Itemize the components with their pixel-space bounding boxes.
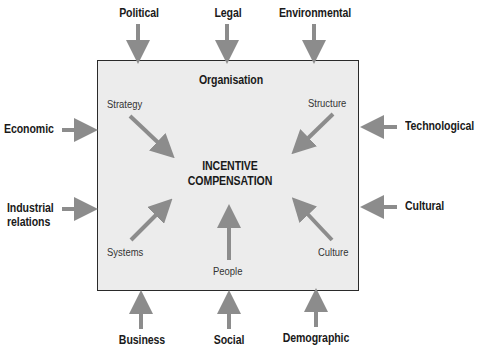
label-industrial-relations: Industrial relations [7,201,54,229]
label-business: Business [116,333,169,347]
label-industrial-line2: relations [7,215,54,229]
label-culture: Culture [318,246,348,258]
box-title-organisation: Organisation [191,73,270,87]
centre-line2: COMPENSATION [177,174,283,189]
label-industrial-line1: Industrial [7,201,54,215]
label-people: People [213,265,242,277]
arrow-structure [300,114,333,146]
label-social: Social [207,333,251,347]
label-legal: Legal [209,6,248,20]
arrow-culture [300,206,332,240]
arrow-strategy [130,116,166,150]
label-strategy: Strategy [107,98,142,110]
centre-incentive-compensation: INCENTIVE COMPENSATION [177,159,283,189]
label-technological: Technological [405,119,474,133]
label-economic: Economic [4,122,54,136]
label-structure: Structure [308,97,346,109]
label-environmental: Environmental [277,6,353,20]
label-cultural: Cultural [405,199,444,213]
centre-line1: INCENTIVE [177,159,283,174]
label-political: Political [116,6,162,20]
arrow-systems [131,207,164,240]
label-demographic: Demographic [281,331,351,345]
label-systems: Systems [107,246,143,258]
